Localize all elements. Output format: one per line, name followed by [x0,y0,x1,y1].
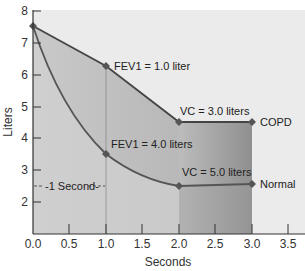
annotation-fev1-copd: FEV1 = 1.0 liter [114,60,190,72]
svg-text:2: 2 [21,195,28,209]
legend-copd: COPD [260,116,292,128]
svg-text:3: 3 [21,163,28,177]
svg-text:2.0: 2.0 [171,237,188,251]
y-axis-title: Liters [1,107,15,136]
svg-text:0.0: 0.0 [25,237,42,251]
svg-text:5: 5 [21,100,28,114]
x-tick-labels: 0.0 0.5 1.0 1.5 2.0 2.5 3.0 3.5 [25,237,297,251]
y-tick-labels: 8 7 6 5 4 3 2 [21,4,28,209]
annotation-vc-copd: VC = 3.0 liters [180,105,250,117]
fev1-vc-chart: 8 7 6 5 4 3 2 0.0 0.5 1.0 1.5 2.0 2.5 3.… [0,0,305,271]
one-second-label: -1 Second- [45,180,99,192]
svg-text:0.5: 0.5 [61,237,78,251]
svg-text:8: 8 [21,4,28,18]
svg-text:3.0: 3.0 [244,237,261,251]
svg-text:6: 6 [21,68,28,82]
annotation-fev1-normal: FEV1 = 4.0 liters [111,138,193,150]
annotation-vc-normal: VC = 5.0 liters [182,166,252,178]
svg-text:4: 4 [21,131,28,145]
svg-text:3.5: 3.5 [280,237,297,251]
svg-text:1.5: 1.5 [134,237,151,251]
svg-text:2.5: 2.5 [207,237,224,251]
legend-normal: Normal [260,178,295,190]
x-axis-title: Seconds [145,255,192,269]
svg-text:1.0: 1.0 [98,237,115,251]
svg-text:7: 7 [21,36,28,50]
